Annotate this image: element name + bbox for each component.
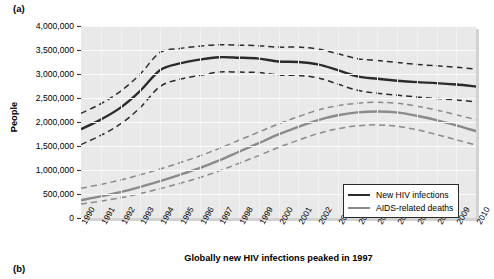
horizontal-gridline bbox=[81, 74, 476, 75]
y-axis-tick-label: 500,000 bbox=[43, 189, 74, 199]
x-axis-tick-labels: 1990199119921993199419951996199719981999… bbox=[0, 218, 494, 258]
y-axis-tick-label: 1,500,000 bbox=[36, 141, 74, 151]
horizontal-gridline bbox=[81, 98, 476, 99]
legend-line-swatch bbox=[348, 207, 370, 209]
y-axis-tick-label: 2,500,000 bbox=[36, 93, 74, 103]
legend-item-label: New HIV infections bbox=[376, 190, 449, 200]
y-axis-tick-label: 3,500,000 bbox=[36, 45, 74, 55]
legend-item: AIDS-related deaths bbox=[348, 201, 453, 214]
legend-line-swatch bbox=[348, 194, 370, 196]
y-axis-tick-label: 1,000,000 bbox=[36, 165, 74, 175]
horizontal-gridline bbox=[81, 170, 476, 171]
x-axis-caption: Globally new HIV infections peaked in 19… bbox=[81, 253, 476, 263]
y-axis-tick-label: 3,000,000 bbox=[36, 69, 74, 79]
horizontal-gridline bbox=[81, 146, 476, 147]
horizontal-gridline bbox=[81, 50, 476, 51]
horizontal-gridline bbox=[81, 26, 476, 27]
legend-item: New HIV infections bbox=[348, 188, 453, 201]
y-axis-tick-label: 4,000,000 bbox=[36, 21, 74, 31]
chart-legend: New HIV infectionsAIDS-related deaths bbox=[343, 184, 459, 218]
legend-item-label: AIDS-related deaths bbox=[376, 203, 453, 213]
figure-panel-a: (a) (b) People 0500,0001,000,0001,500,00… bbox=[0, 0, 494, 279]
y-axis-tick-label: 2,000,000 bbox=[36, 117, 74, 127]
horizontal-gridline bbox=[81, 122, 476, 123]
